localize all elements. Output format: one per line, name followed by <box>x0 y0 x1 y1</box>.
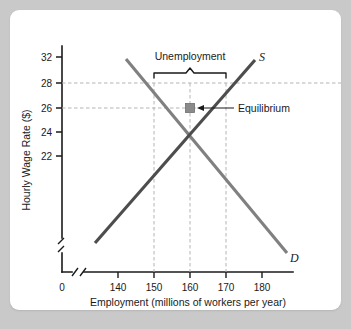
curves-group <box>95 59 287 253</box>
equilibrium-arrow-icon <box>197 105 204 111</box>
y-tick-label-32: 32 <box>41 52 53 63</box>
supply-demand-chart: 32 28 26 24 22 140 150 160 170 180 0 <box>10 10 341 310</box>
supply-curve <box>95 60 255 243</box>
supply-curve-label: S <box>259 50 265 64</box>
reference-lines-group <box>62 83 341 272</box>
x-axis-title: Employment (millions of workers per year… <box>90 296 286 308</box>
equilibrium-annotation: Equilibrium <box>186 102 291 114</box>
y-tick-label-22: 22 <box>41 151 53 162</box>
x-tick-label-160: 160 <box>182 282 199 293</box>
y-axis-title: Hourly Wage Rate ($) <box>20 109 32 210</box>
equilibrium-marker <box>186 104 195 113</box>
x-ticks-group: 140 150 160 170 180 0 <box>59 272 271 293</box>
origin-label: 0 <box>59 282 65 293</box>
y-tick-label-26: 26 <box>41 103 53 114</box>
figure-card: 32 28 26 24 22 140 150 160 170 180 0 <box>10 10 341 310</box>
unemployment-brace <box>154 68 226 78</box>
y-axis-break-icon <box>58 238 64 252</box>
unemployment-annotation: Unemployment <box>154 50 226 78</box>
curve-labels-group: S D <box>259 50 299 265</box>
y-tick-label-28: 28 <box>41 78 53 89</box>
x-tick-label-170: 170 <box>218 282 235 293</box>
y-ticks-group: 32 28 26 24 22 <box>41 52 62 162</box>
demand-curve-label: D <box>289 251 299 265</box>
equilibrium-label: Equilibrium <box>238 102 290 114</box>
demand-curve <box>126 59 287 253</box>
y-tick-label-24: 24 <box>41 127 53 138</box>
x-tick-label-150: 150 <box>146 282 163 293</box>
x-tick-label-180: 180 <box>254 282 271 293</box>
unemployment-label: Unemployment <box>155 50 226 62</box>
x-tick-label-140: 140 <box>110 282 127 293</box>
axes-group <box>58 46 293 276</box>
